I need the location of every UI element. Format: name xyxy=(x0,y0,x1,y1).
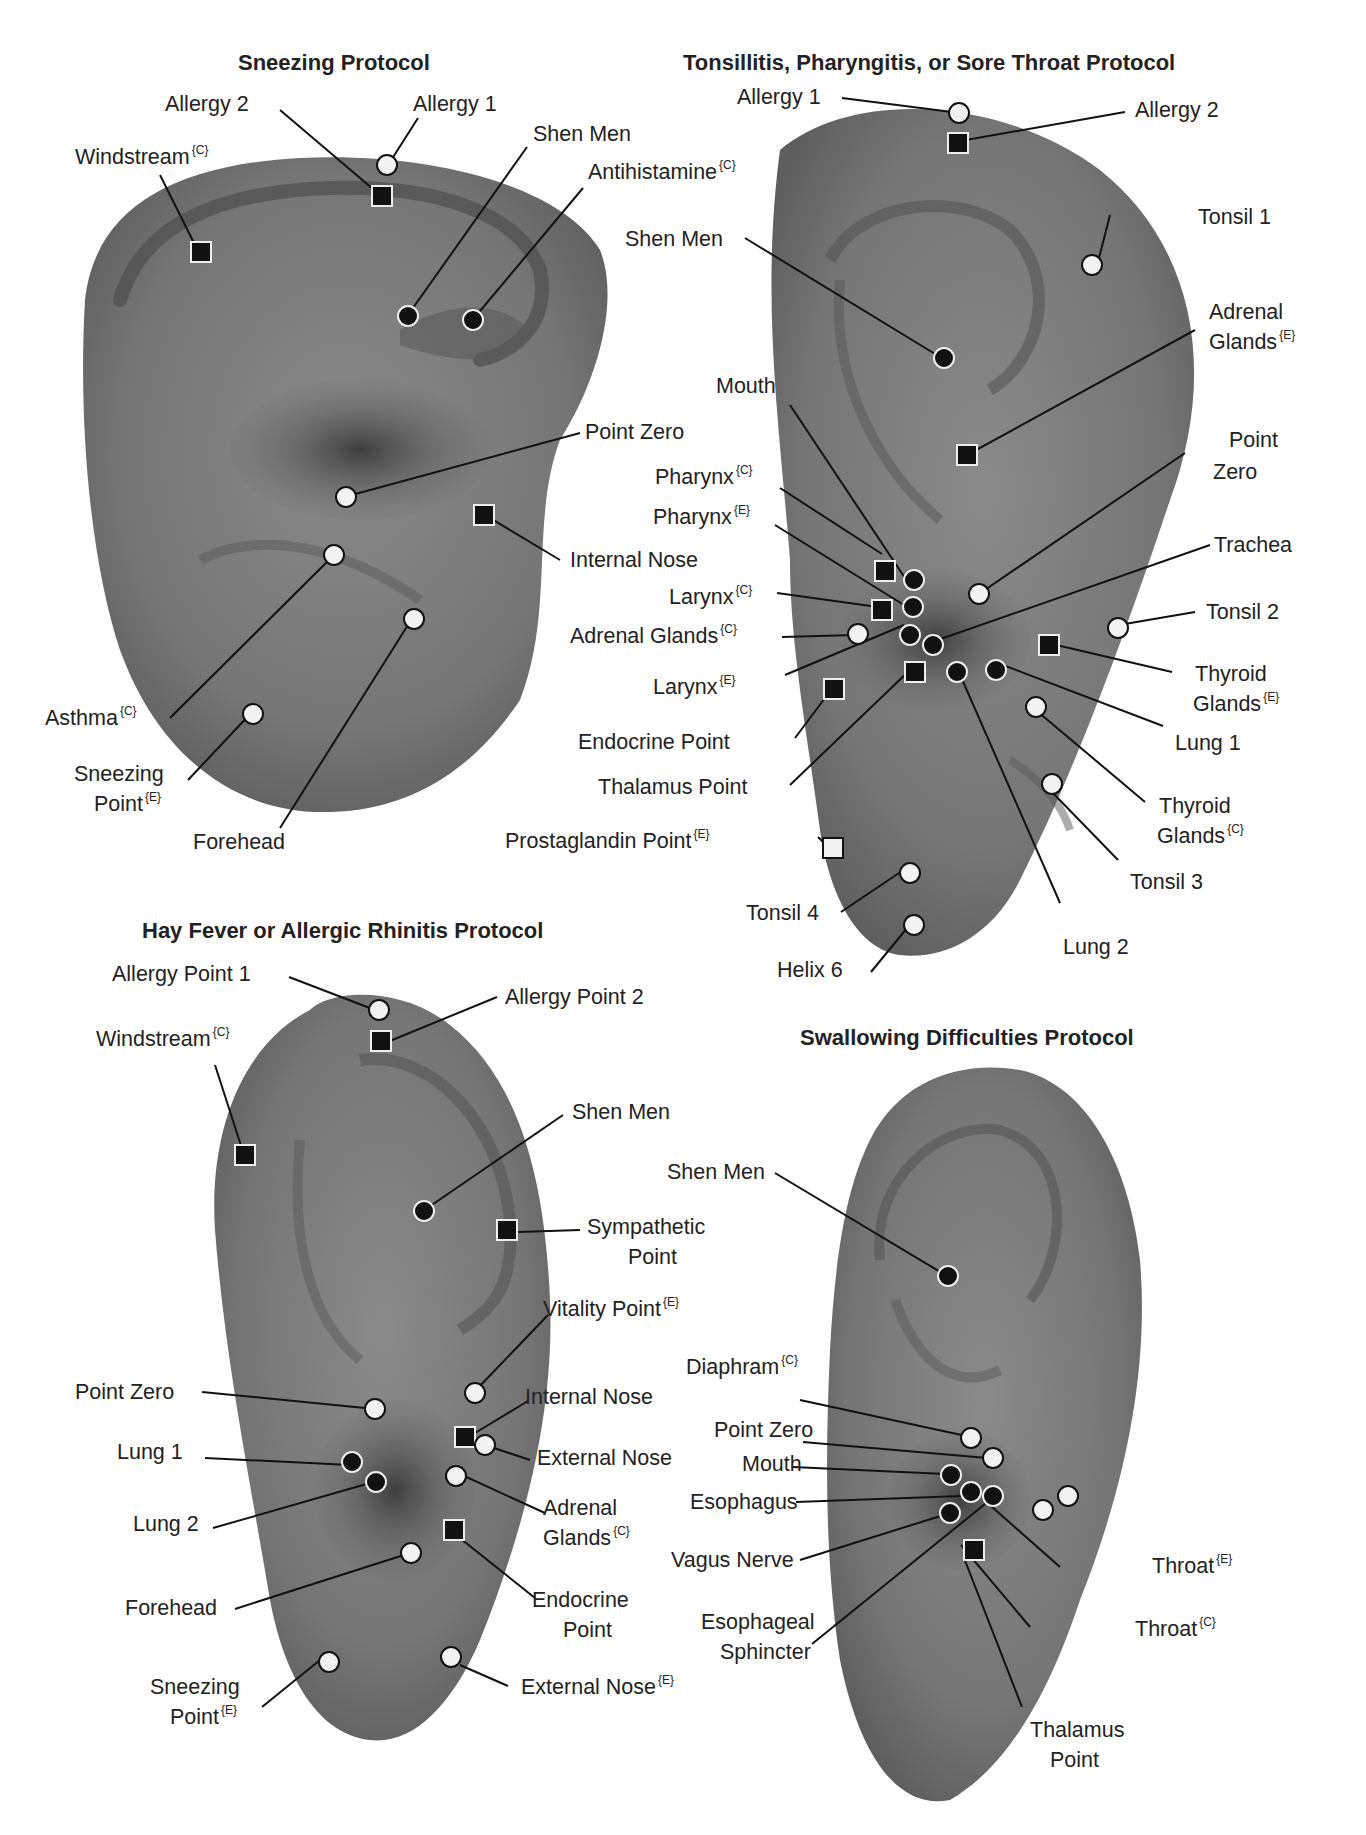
label-shen-men: Shen Men xyxy=(572,1100,672,1125)
label-forehead: Forehead xyxy=(193,830,287,855)
label-antihistamine: Antihistamine{C} xyxy=(588,160,736,185)
label-sneezing-point: Point{E} xyxy=(170,1705,237,1730)
label-adrenal: Adrenal xyxy=(543,1496,619,1521)
label-prostaglandin-point: Prostaglandin Point{E} xyxy=(505,829,710,854)
label-thalamus: Thalamus xyxy=(1030,1718,1126,1743)
label-helix-6: Helix 6 xyxy=(777,958,845,983)
label-thyroid-2: Thyroid xyxy=(1159,794,1233,819)
label-tonsil-4: Tonsil 4 xyxy=(746,901,821,926)
ear-tonsillitis xyxy=(745,98,1210,972)
label-sneezing-point: Point{E} xyxy=(94,792,161,817)
label-pharynx-e: Pharynx{E} xyxy=(653,505,750,530)
label-windstream: Windstream{C} xyxy=(75,145,208,170)
label-mouth: Mouth xyxy=(742,1452,804,1477)
label-tonsil-1: Tonsil 1 xyxy=(1198,205,1273,230)
label-sympathetic: Sympathetic xyxy=(587,1215,707,1240)
label-shen-men: Shen Men xyxy=(667,1160,767,1185)
label-esophageal: Esophageal xyxy=(701,1610,817,1635)
label-adrenal-glands-e: Glands{E} xyxy=(1209,330,1295,355)
label-allergy-1: Allergy 1 xyxy=(737,85,823,110)
label-endocrine-point: Point xyxy=(563,1618,614,1643)
label-internal-nose: Internal Nose xyxy=(525,1385,655,1410)
label-vitality-point: Vitality Point{E} xyxy=(543,1297,679,1322)
label-thyroid: Thyroid xyxy=(1195,662,1269,687)
label-adrenal: Adrenal xyxy=(1209,300,1285,325)
label-point: Point xyxy=(1229,428,1280,453)
label-tonsil-2: Tonsil 2 xyxy=(1206,600,1281,625)
label-tonsil-3: Tonsil 3 xyxy=(1130,870,1205,895)
label-esophagus: Esophagus xyxy=(690,1490,800,1515)
label-external-nose-e: External Nose{E} xyxy=(521,1675,674,1700)
label-asthma: Asthma{C} xyxy=(45,706,137,731)
label-lung-2: Lung 2 xyxy=(1063,935,1131,960)
label-allergy-2: Allergy 2 xyxy=(165,92,251,117)
label-point-zero: Point Zero xyxy=(585,420,686,445)
label-allergy-2: Allergy 2 xyxy=(1135,98,1221,123)
panel-title-hay-fever: Hay Fever or Allergic Rhinitis Protocol xyxy=(142,918,543,944)
panel-title-tonsillitis: Tonsillitis, Pharyngitis, or Sore Throat… xyxy=(683,50,1175,76)
ear-swallowing xyxy=(775,1068,1142,1802)
label-sneezing: Sneezing xyxy=(74,762,166,787)
label-allergy-point-1: Allergy Point 1 xyxy=(112,962,253,987)
label-lung-1: Lung 1 xyxy=(117,1440,185,1465)
label-trachea: Trachea xyxy=(1214,533,1294,558)
label-diaphram: Diaphram{C} xyxy=(686,1355,798,1380)
label-adrenal-glands-c: Adrenal Glands{C} xyxy=(570,624,737,649)
label-external-nose: External Nose xyxy=(537,1446,674,1471)
panel-title-sneezing: Sneezing Protocol xyxy=(238,50,430,76)
label-allergy-1: Allergy 1 xyxy=(413,92,499,117)
label-point-zero: Point Zero xyxy=(75,1380,176,1405)
panel-title-swallowing: Swallowing Difficulties Protocol xyxy=(800,1025,1134,1051)
label-endocrine: Endocrine xyxy=(532,1588,631,1613)
label-adrenal-glands-c: Glands{C} xyxy=(543,1526,630,1551)
label-allergy-point-2: Allergy Point 2 xyxy=(505,985,646,1010)
label-forehead: Forehead xyxy=(125,1596,219,1621)
label-larynx-c: Larynx{C} xyxy=(669,585,752,610)
label-endocrine-point: Endocrine Point xyxy=(578,730,732,755)
label-sneezing: Sneezing xyxy=(150,1675,242,1700)
label-zero: Zero xyxy=(1213,460,1259,485)
label-thyroid-glands-c: Glands{C} xyxy=(1157,824,1244,849)
label-esophageal-sphincter: Sphincter xyxy=(720,1640,813,1665)
label-pharynx-c: Pharynx{C} xyxy=(655,465,753,490)
label-vagus-nerve: Vagus Nerve xyxy=(671,1548,796,1573)
label-thalamus-point: Thalamus Point xyxy=(598,775,749,800)
label-internal-nose: Internal Nose xyxy=(570,548,700,573)
label-thyroid-glands-e: Glands{E} xyxy=(1193,692,1279,717)
label-windstream: Windstream{C} xyxy=(96,1027,229,1052)
label-throat-c: Throat{C} xyxy=(1135,1617,1216,1642)
label-shen-men: Shen Men xyxy=(625,227,725,252)
label-lung-2: Lung 2 xyxy=(133,1512,201,1537)
label-point-zero: Point Zero xyxy=(714,1418,815,1443)
label-thalamus-point: Point xyxy=(1050,1748,1101,1773)
ear-sneezing xyxy=(83,110,607,828)
label-sympathetic-point: Point xyxy=(628,1245,679,1270)
label-lung-1: Lung 1 xyxy=(1175,731,1243,756)
label-throat-e: Throat{E} xyxy=(1152,1554,1232,1579)
label-larynx-e: Larynx{E} xyxy=(653,675,736,700)
ear-hay-fever xyxy=(202,977,580,1740)
label-shen-men: Shen Men xyxy=(533,122,633,147)
label-mouth: Mouth xyxy=(716,374,778,399)
